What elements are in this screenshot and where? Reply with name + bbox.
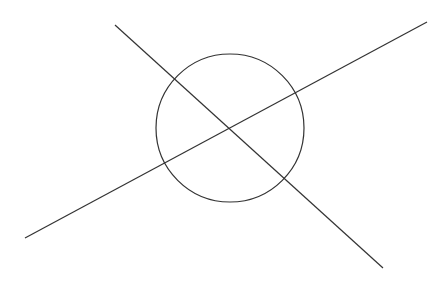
diagram-canvas	[0, 0, 445, 283]
line-descending	[115, 25, 383, 268]
